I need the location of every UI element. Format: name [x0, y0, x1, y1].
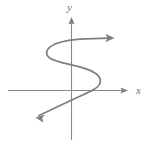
coordinate-plane-svg	[0, 0, 147, 146]
x-axis	[8, 87, 128, 93]
x-axis-label: x	[136, 85, 141, 96]
y-axis	[68, 17, 74, 140]
plotted-curve	[35, 34, 114, 122]
graph-figure: y x	[0, 0, 147, 146]
sideways-s-curve-path	[39, 38, 110, 115]
y-axis-label: y	[67, 2, 72, 13]
